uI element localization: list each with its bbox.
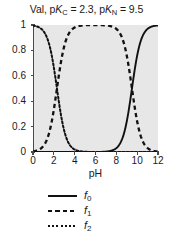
y-tick-label: 0.4 <box>0 96 31 106</box>
legend-item-f1: f1 <box>48 203 128 218</box>
legend-label-f1: f1 <box>77 205 92 217</box>
y-axis-ticks: 00.20.40.60.81 <box>0 25 31 152</box>
x-tick-mark <box>74 151 75 155</box>
x-tick-mark <box>116 151 117 155</box>
title-pk2: pKN <box>99 3 117 15</box>
title-compound: Val, <box>30 3 47 15</box>
legend-swatch-f2 <box>48 221 77 231</box>
y-tick-label: 0.2 <box>0 122 31 132</box>
curve-layer <box>33 25 158 152</box>
chart-title: Val, pKC = 2.3, pKN = 9.5 <box>0 3 173 17</box>
x-tick-mark <box>137 151 138 155</box>
x-tick-mark <box>157 151 158 155</box>
x-tick-label: 8 <box>106 156 126 166</box>
x-tick-label: 2 <box>44 156 64 166</box>
legend-label-f0: f0 <box>77 190 92 202</box>
x-tick-label: 12 <box>148 156 168 166</box>
y-tick-label: 1 <box>0 20 31 30</box>
plot-area <box>33 25 158 152</box>
series-f0 <box>33 25 158 152</box>
legend-swatch-f0 <box>48 191 77 201</box>
y-tick-label: 0.6 <box>0 71 31 81</box>
title-pk2-value: = 9.5 <box>120 3 143 15</box>
x-tick-mark <box>95 151 96 155</box>
x-axis-label: pH <box>33 167 158 179</box>
title-pk1-value: = 2.3, <box>70 3 96 15</box>
legend-label-f2: f2 <box>77 220 92 232</box>
chart-figure: Val, pKC = 2.3, pKN = 9.5 00.20.40.60.81… <box>0 0 173 238</box>
legend-item-f0: f0 <box>48 188 128 203</box>
x-tick-mark <box>53 151 54 155</box>
x-tick-mark <box>32 151 33 155</box>
legend-item-f2: f2 <box>48 218 128 233</box>
title-pk1: pKC <box>50 3 68 15</box>
x-tick-label: 10 <box>127 156 147 166</box>
x-axis-ticks: 024681012 <box>33 155 158 167</box>
legend-swatch-f1 <box>48 206 77 216</box>
y-tick-label: 0.8 <box>0 45 31 55</box>
x-tick-label: 0 <box>23 156 43 166</box>
x-tick-label: 4 <box>65 156 85 166</box>
legend: f0 f1 f2 <box>48 188 128 233</box>
x-tick-label: 6 <box>86 156 106 166</box>
